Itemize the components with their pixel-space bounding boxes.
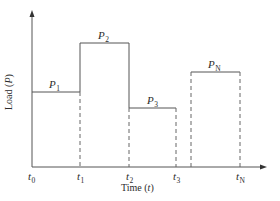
time-tick-t0: t0 bbox=[28, 171, 35, 182]
load-label-pn: PN bbox=[208, 59, 221, 70]
load-label-p3: P3 bbox=[147, 95, 158, 106]
x-axis-arrow-icon bbox=[260, 165, 267, 170]
y-axis-arrow-icon bbox=[30, 10, 35, 17]
y-axis-title: Load (P) bbox=[3, 74, 14, 110]
load-label-p1: P1 bbox=[49, 79, 60, 90]
time-tick-t1: t1 bbox=[77, 171, 84, 182]
time-tick-t2: t2 bbox=[126, 171, 133, 182]
time-tick-t3: t3 bbox=[173, 171, 180, 182]
time-tick-tn: tN bbox=[236, 171, 245, 182]
x-axis-title: Time (t) bbox=[121, 182, 154, 193]
load-label-p2: P2 bbox=[98, 30, 109, 41]
load-profile-diagram: P1 P2 P3 PN t0 t1 t2 t3 tN Load (P) Time… bbox=[0, 0, 280, 201]
